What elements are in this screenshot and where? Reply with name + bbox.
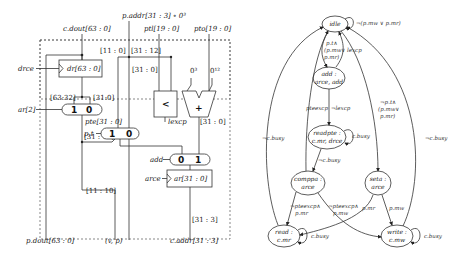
edge-label-read-self: c.busy xyxy=(311,233,330,240)
state-seta-label: seta : xyxy=(370,175,387,182)
label-pto: pto[19 : 0] xyxy=(194,25,231,33)
edge-label-idle-seta-1: ¬p.t∧ xyxy=(380,99,396,106)
wire-ptl xyxy=(159,34,171,91)
register-ar-label: ar[31 : 0] xyxy=(174,175,207,183)
state-read-label: read : xyxy=(275,228,293,235)
label-zero12: 0¹² xyxy=(210,67,220,75)
diagram-canvas: c.dout[63 : 0] p.addr[31 : 3] ∘ 0³ ptl[1… xyxy=(0,0,457,262)
edge-label-idle-self: ¬(p.mw ∨ p.mr) xyxy=(356,20,401,27)
edge-label-comppa-read-1: ¬pteexcp∧ xyxy=(290,203,321,210)
label-pt: p.t xyxy=(84,130,94,138)
state-write-output: c.mw xyxy=(389,236,406,243)
edge-label-comppa-read-2: p.mr xyxy=(295,210,308,217)
label-pte: pte[31 : 0] xyxy=(85,118,122,126)
register-dr-label: dr[63 : 0] xyxy=(67,65,101,73)
label-31-0-mux: [31:0] xyxy=(93,94,114,102)
edge-label-idle-add-1: p.t∧ xyxy=(326,40,338,47)
label-arce: arce xyxy=(145,175,161,183)
edge-label-idle-add-2: (p.mw∨ xyxy=(324,47,345,54)
edge-label-idle-seta-2: (p.mw∨ xyxy=(378,106,399,113)
mux-3 xyxy=(170,154,210,165)
label-zero3: 0³ xyxy=(190,67,197,75)
label-11-0: [11 : 0] xyxy=(100,47,126,55)
label-31-3: [31 : 3] xyxy=(192,216,218,224)
state-readpte-output: c.mr, drce xyxy=(312,137,343,144)
state-idle-label: idle xyxy=(329,20,341,27)
label-drce: drce xyxy=(18,65,34,73)
state-seta-output: arce xyxy=(371,183,385,190)
label-p-dout: p.dout[63 : 0] xyxy=(26,237,75,245)
mux-3-in1: 1 xyxy=(195,155,201,165)
state-comppa-label: comppa : xyxy=(294,175,322,183)
label-vp: (v, p) xyxy=(105,237,123,245)
wire-zero3 xyxy=(187,78,191,91)
state-add-output: arce, add xyxy=(315,78,344,85)
edge-label-seta-write: p.mw xyxy=(389,205,404,212)
mux-1-in1: 1 xyxy=(71,105,77,115)
label-ar2: ar[2] xyxy=(18,106,36,114)
edge-label-seta-read: p.mr xyxy=(362,205,375,212)
edge-label-add-readpte: ¬lexcp xyxy=(331,105,351,112)
edge-label-read-idle: ¬c.busy xyxy=(262,135,285,142)
wire-dr-split xyxy=(74,77,90,104)
mux-2 xyxy=(101,128,139,139)
mux-2-in0: 0 xyxy=(126,129,132,139)
state-add-label: add : xyxy=(321,70,336,77)
mux-2-in1: 1 xyxy=(109,129,115,139)
state-readpte-label: readpte : xyxy=(313,129,341,137)
label-p-addr: p.addr[31 : 3] ∘ 0³ xyxy=(122,12,186,20)
edge-label-idle-add-3: p.mr) xyxy=(324,54,339,61)
edge-label-pteexcp: pteexcp xyxy=(306,105,328,112)
state-comppa-output: arce xyxy=(301,183,315,190)
mux-3-in0: 0 xyxy=(178,155,184,165)
label-63-32: [63:32] xyxy=(50,94,76,102)
state-write-label: write : xyxy=(387,228,407,235)
wire-zero12 xyxy=(209,78,212,91)
label-c-dout: c.dout[63 : 0] xyxy=(63,25,111,33)
edge-label-readpte-self: c.busy xyxy=(352,133,371,140)
edge-label-comppa-write-1: ¬pteexcp∧ xyxy=(328,203,359,210)
label-ptl: ptl[19 : 0] xyxy=(144,25,179,33)
adder-op: + xyxy=(195,103,203,113)
label-31-0-mid: [31 : 0] xyxy=(132,66,158,74)
edge-comppa-write xyxy=(318,193,381,237)
comparator-op: < xyxy=(162,99,170,109)
label-31-12-top: [31 : 12] xyxy=(131,47,161,55)
label-add: add xyxy=(150,156,164,164)
edge-label-readpte-comppa: ¬c.busy xyxy=(318,157,341,164)
edge-label-idle-seta-3: p.mr) xyxy=(380,113,395,120)
label-c-addr: c.addr[31 : 3] xyxy=(170,237,219,245)
label-31-0-adder: [31 : 0] xyxy=(200,118,226,126)
label-lexcp: lexcp xyxy=(168,118,187,126)
state-machine: idle add : arce, add readpte : c.mr, drc… xyxy=(262,16,448,247)
label-11-10: [11 : 10] xyxy=(86,187,116,195)
edge-write-idle xyxy=(347,27,416,226)
mux-1 xyxy=(62,104,102,115)
state-read-output: c.mr xyxy=(277,236,292,243)
edge-label-comppa-write-2: p.mw xyxy=(333,210,348,217)
edge-label-write-idle: ¬c.busy xyxy=(425,135,448,142)
edge-label-write-self: c.busy xyxy=(424,233,443,240)
datapath: c.dout[63 : 0] p.addr[31 : 3] ∘ 0³ ptl[1… xyxy=(18,12,231,245)
mux-1-in0: 0 xyxy=(86,105,92,115)
